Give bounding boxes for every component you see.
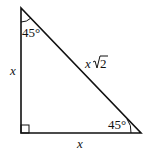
triangle-diagram: 45° 45° x x x 2	[0, 0, 150, 155]
bottom-right-angle-label: 45°	[108, 118, 126, 131]
triangle-svg	[0, 0, 150, 155]
left-side-label: x	[10, 64, 16, 77]
right-angle-marker	[21, 125, 29, 133]
hypotenuse-root-label: 2	[100, 57, 107, 70]
top-angle-label: 45°	[22, 26, 40, 39]
bottom-side-label: x	[77, 137, 83, 150]
hypotenuse-var-label: x	[85, 57, 91, 70]
top-angle-arc	[21, 18, 31, 22]
